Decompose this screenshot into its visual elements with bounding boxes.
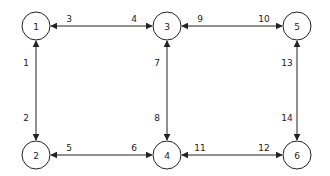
edge-label-to: 14 [281,113,293,123]
edge-label-from: 1 [23,58,29,68]
edge-label-from: 5 [66,143,72,153]
edge-1-3: 34 [51,14,152,26]
node-5: 5 [283,12,311,40]
edge-label-from: 7 [154,58,160,68]
node-label: 6 [294,151,300,161]
node-6: 6 [283,141,311,169]
graph-diagram: 3491056111212781314 135246 [0,0,330,176]
edge-label-to: 4 [131,14,137,24]
edge-label-from: 13 [281,58,292,68]
node-2: 2 [22,141,50,169]
edge-3-5: 910 [182,14,282,26]
edge-4-6: 1112 [182,143,282,155]
node-label: 1 [33,22,39,32]
node-label: 4 [164,151,170,161]
node-4: 4 [153,141,181,169]
edge-label-from: 3 [66,14,72,24]
edge-1-2: 12 [23,41,36,140]
edge-label-from: 9 [197,14,203,24]
edge-3-4: 78 [154,41,167,140]
edge-label-to: 2 [23,113,29,123]
node-3: 3 [153,12,181,40]
node-label: 5 [294,22,300,32]
node-1: 1 [22,12,50,40]
edge-label-to: 6 [131,143,137,153]
edge-label-to: 12 [258,143,269,153]
node-label: 3 [164,22,170,32]
edge-label-from: 11 [194,143,205,153]
edge-label-to: 10 [258,14,270,24]
edge-label-to: 8 [154,113,160,123]
edge-5-6: 1314 [281,41,297,140]
node-label: 2 [33,151,39,161]
edge-2-4: 56 [51,143,152,155]
